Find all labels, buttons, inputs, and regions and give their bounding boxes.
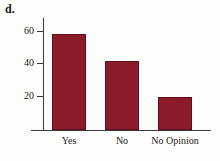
y-tick-mark-40 [37,63,43,64]
y-tick-mark-20 [37,96,43,97]
y-axis-line [43,18,44,131]
bar-no [105,61,139,131]
y-tick-label-40: 40 [0,58,34,68]
y-tick-label-20: 20 [0,91,34,101]
y-tick-label-60: 60 [0,26,34,36]
y-tick-mark-60 [37,31,43,32]
x-tick-label-no-opinion: No Opinion [135,136,215,146]
bar-no-opinion [158,97,192,130]
plot-area: 60 40 20 Yes No No Opinion [0,0,220,161]
bar-yes [52,34,86,130]
bar-chart-figure: d. 60 40 20 Yes No No Opinion [0,0,220,161]
